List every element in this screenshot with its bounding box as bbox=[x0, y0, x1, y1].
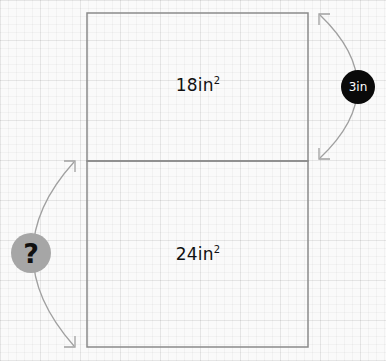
top-area-exponent: 2 bbox=[214, 75, 221, 86]
bottom-area-unit: in bbox=[198, 244, 214, 264]
top-area-value: 18 bbox=[176, 75, 198, 95]
known-side-label: 3in bbox=[349, 80, 368, 94]
area-diagram bbox=[0, 0, 386, 361]
top-area-label: 18in2 bbox=[138, 75, 258, 95]
bottom-area-label: 24in2 bbox=[138, 244, 258, 264]
known-side-badge: 3in bbox=[341, 70, 375, 104]
question-mark-icon: ? bbox=[23, 238, 39, 269]
bottom-area-exponent: 2 bbox=[214, 244, 221, 255]
top-area-unit: in bbox=[198, 75, 214, 95]
bottom-area-value: 24 bbox=[176, 244, 198, 264]
unknown-side-badge: ? bbox=[11, 233, 51, 273]
